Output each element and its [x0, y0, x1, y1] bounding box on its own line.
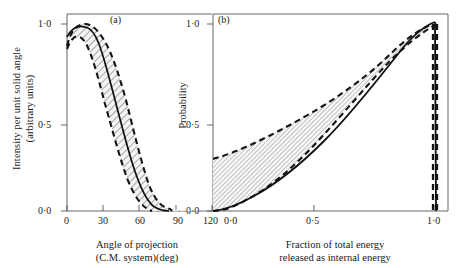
- panel-a-band: [67, 24, 207, 211]
- panel-b-central-line-drop: [435, 22, 436, 211]
- figure-container: Intensity per unit solid angle (arbitrar…: [0, 0, 462, 268]
- panel-b-upper-bound: [213, 24, 433, 159]
- plot-svg: [0, 0, 462, 268]
